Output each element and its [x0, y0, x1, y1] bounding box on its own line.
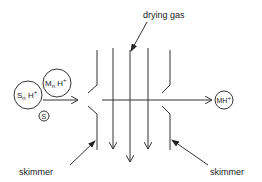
- left-skimmer: [88, 50, 97, 150]
- solvent-cluster-ion: Sn H+: [14, 81, 42, 109]
- skimmer-right-label: skimmer: [210, 167, 244, 177]
- skimmer-left-label: skimmer: [19, 167, 53, 177]
- right-skimmer-lower-plate: [162, 106, 170, 150]
- analyte-cluster-label: Mn H+: [45, 77, 67, 89]
- drying-gas-flows: [113, 48, 148, 162]
- solvent-cluster-label: Sn H+: [17, 89, 38, 101]
- solvent-label: S: [42, 113, 47, 120]
- skimmer-diagram: Sn H+ Mn H+ S MH+ drying gas skimmer ski…: [0, 0, 262, 182]
- product-ion: MH+: [215, 91, 233, 109]
- skimmer-left-pointer: [70, 141, 95, 165]
- drying-gas-pointer: [131, 22, 147, 51]
- solvent-molecule: S: [39, 111, 49, 121]
- skimmer-right-pointer: [172, 140, 208, 165]
- drying-gas-label: drying gas: [143, 10, 185, 20]
- product-ion-label: MH+: [217, 95, 232, 104]
- left-skimmer-upper-plate: [88, 50, 97, 93]
- analyte-cluster-ion: Mn H+: [43, 69, 71, 97]
- right-skimmer-upper-plate: [162, 50, 170, 93]
